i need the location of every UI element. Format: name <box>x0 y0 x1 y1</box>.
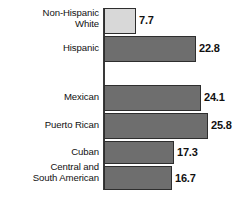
bar-central-and-south-american <box>104 166 172 190</box>
bar-category-label: Central and South American <box>33 162 99 183</box>
bar-value-label: 7.7 <box>139 14 154 26</box>
bar-category-label: Hispanic <box>63 43 99 54</box>
bar-value-label: 16.7 <box>175 172 196 184</box>
bar-non-hispanic-white <box>104 8 136 34</box>
bar-category-label: Cuban <box>71 147 99 158</box>
bar-mexican <box>104 85 201 111</box>
bar-puerto-rican <box>104 113 208 139</box>
bar-value-label: 17.3 <box>177 146 198 158</box>
bar-value-label: 25.8 <box>211 119 232 131</box>
bar-hispanic <box>104 36 196 62</box>
bar-value-label: 22.8 <box>199 42 220 54</box>
bar-category-label: Non-Hispanic White <box>43 8 99 29</box>
horizontal-bar-chart: Non-Hispanic White 7.7 Hispanic 22.8 Mex… <box>0 0 238 198</box>
bar-value-label: 24.1 <box>204 91 225 103</box>
bar-category-label: Mexican <box>64 92 99 103</box>
bar-cuban <box>104 141 174 164</box>
bar-category-label: Puerto Rican <box>45 120 99 131</box>
